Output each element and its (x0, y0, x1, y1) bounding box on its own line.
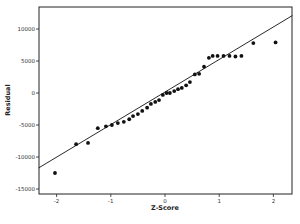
y-tick-label: 10000 (18, 26, 36, 32)
y-axis-ticks: 1000050000-5000-10000-15000 (16, 26, 39, 192)
data-point (168, 91, 172, 95)
data-point (86, 141, 90, 145)
data-point (197, 72, 201, 76)
y-tick-label: -15000 (16, 186, 36, 192)
y-tick-label: 0 (32, 90, 36, 96)
data-point (122, 120, 126, 124)
data-point (228, 54, 232, 58)
x-axis-ticks: -2-1012 (54, 194, 275, 204)
data-point (136, 112, 140, 116)
data-point (140, 109, 144, 113)
data-point (74, 142, 78, 146)
data-point (193, 73, 197, 77)
data-point (222, 54, 226, 58)
data-point (184, 83, 188, 87)
y-tick-label: -10000 (16, 154, 36, 160)
data-point (251, 41, 255, 45)
data-point (176, 87, 180, 91)
x-axis-label: Z-Score (151, 204, 180, 212)
data-point (188, 80, 192, 84)
data-point (172, 89, 176, 93)
data-point (116, 121, 120, 125)
y-tick-label: 5000 (21, 58, 35, 64)
data-point (127, 117, 131, 121)
qq-residual-chart: 1000050000-5000-10000-15000 -2-1012 Z-Sc… (0, 0, 300, 224)
data-point (110, 123, 114, 127)
data-point (211, 54, 215, 58)
data-point (234, 55, 238, 59)
data-point (274, 41, 278, 45)
plot-frame (39, 7, 292, 194)
x-tick-label: -2 (54, 198, 59, 204)
data-point (207, 56, 211, 60)
x-tick-label: 1 (217, 198, 221, 204)
y-tick-label: -5000 (19, 122, 35, 128)
data-point (216, 54, 220, 58)
data-point (157, 98, 161, 102)
data-point (53, 171, 57, 175)
data-point (165, 91, 169, 95)
data-point (153, 100, 157, 104)
x-tick-label: 2 (272, 198, 276, 204)
data-point (104, 124, 108, 128)
data-point (161, 93, 165, 97)
x-tick-label: -1 (108, 198, 113, 204)
data-point (240, 54, 244, 58)
data-point (96, 126, 100, 130)
data-point (149, 102, 153, 106)
data-point (202, 65, 206, 69)
y-axis-label: Residual (4, 84, 12, 115)
data-point (180, 86, 184, 90)
data-point (145, 106, 149, 110)
data-point (131, 114, 135, 118)
